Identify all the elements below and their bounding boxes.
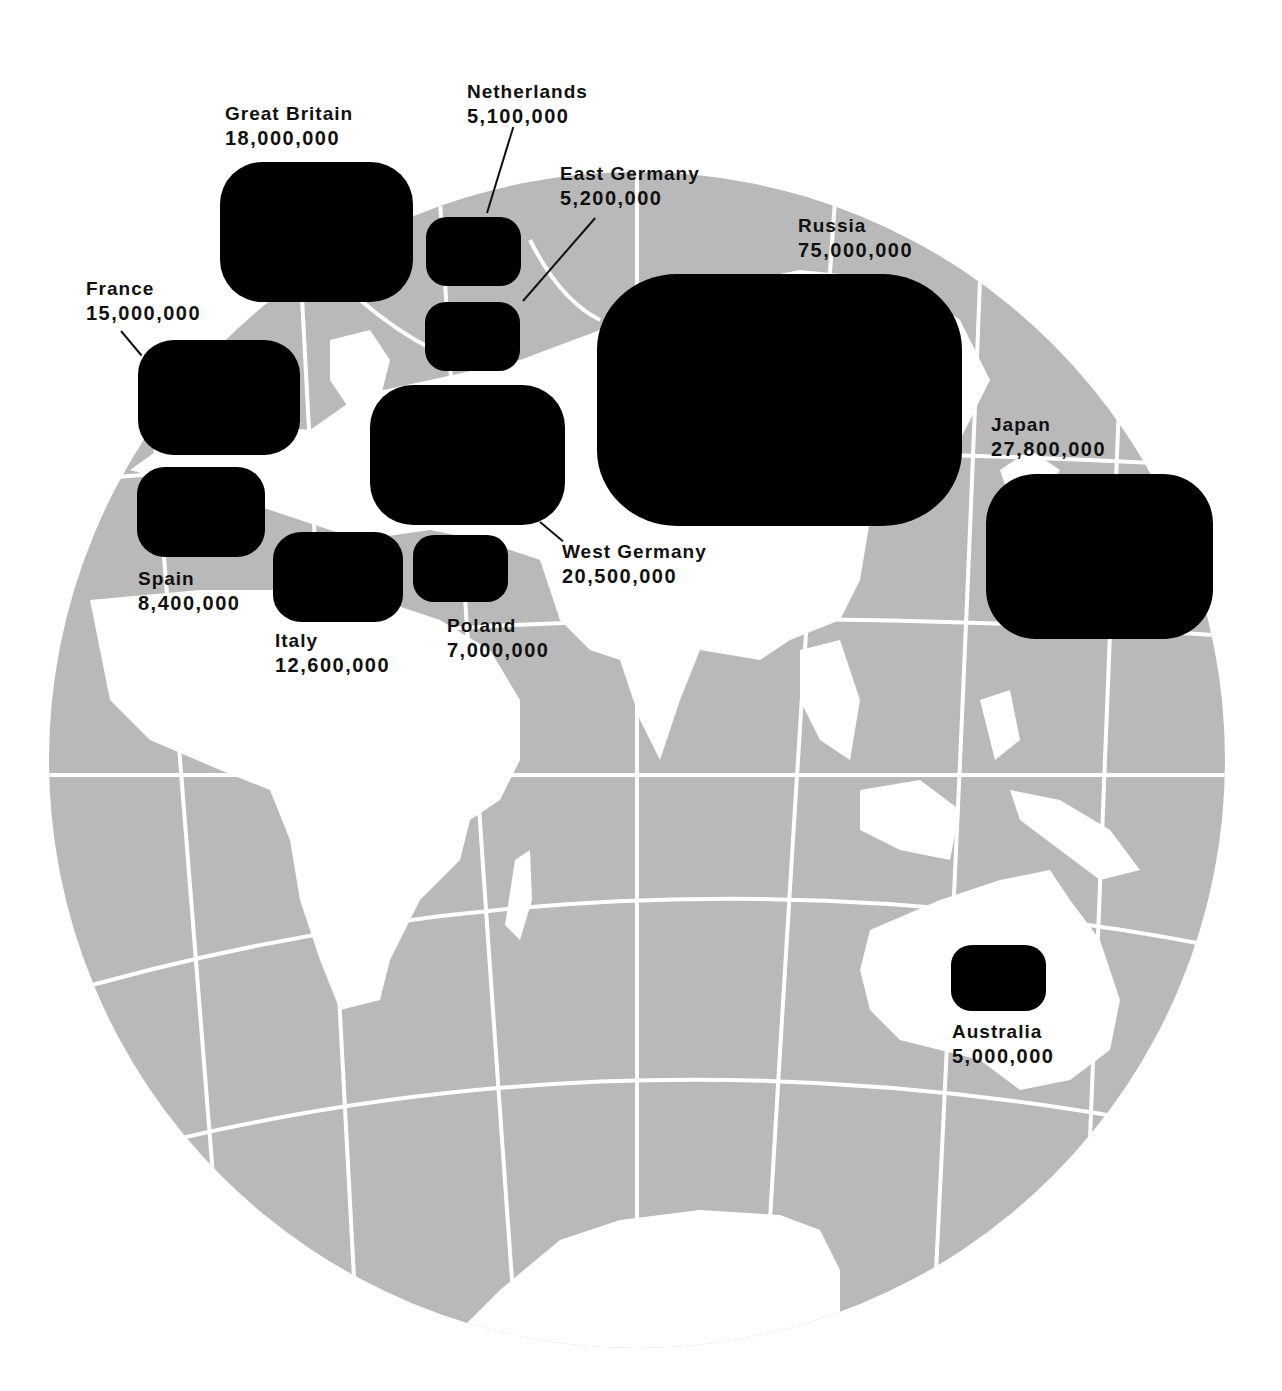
tv-netherlands	[426, 217, 521, 286]
label-east-germany: East Germany 5,200,000	[560, 162, 700, 210]
tv-east-germany	[425, 302, 520, 371]
label-australia: Australia 5,000,000	[952, 1020, 1054, 1068]
label-italy: Italy 12,600,000	[275, 629, 390, 677]
country-name: West Germany	[562, 541, 707, 562]
label-netherlands: Netherlands 5,100,000	[467, 80, 588, 128]
country-name: Italy	[275, 630, 318, 651]
label-japan: Japan 27,800,000	[991, 413, 1106, 461]
country-value: 7,000,000	[447, 638, 549, 662]
country-name: Spain	[138, 568, 195, 589]
country-value: 5,000,000	[952, 1044, 1054, 1068]
country-name: Poland	[447, 615, 516, 636]
label-west-germany: West Germany 20,500,000	[562, 540, 707, 588]
country-name: Russia	[798, 215, 866, 236]
country-value: 8,400,000	[138, 591, 240, 615]
country-name: Australia	[952, 1021, 1042, 1042]
country-value: 18,000,000	[225, 126, 353, 150]
country-value: 12,600,000	[275, 653, 390, 677]
country-value: 15,000,000	[86, 301, 201, 325]
country-value: 20,500,000	[562, 564, 707, 588]
country-name: Netherlands	[467, 81, 588, 102]
tv-poland	[413, 535, 508, 602]
tv-west-germany	[370, 385, 565, 525]
country-name: East Germany	[560, 163, 700, 184]
country-value: 5,200,000	[560, 186, 700, 210]
country-name: Great Britain	[225, 103, 353, 124]
country-value: 75,000,000	[798, 238, 913, 262]
label-great-britain: Great Britain 18,000,000	[225, 102, 353, 150]
tv-france	[138, 340, 300, 455]
label-poland: Poland 7,000,000	[447, 614, 549, 662]
tv-italy	[273, 532, 403, 622]
label-russia: Russia 75,000,000	[798, 214, 913, 262]
label-spain: Spain 8,400,000	[138, 567, 240, 615]
tv-australia	[951, 945, 1046, 1011]
tv-great-britain	[220, 162, 413, 302]
country-name: Japan	[991, 414, 1051, 435]
tv-spain	[137, 467, 265, 557]
country-value: 5,100,000	[467, 104, 588, 128]
country-value: 27,800,000	[991, 437, 1106, 461]
tv-japan	[986, 474, 1213, 639]
label-france: France 15,000,000	[86, 277, 201, 325]
tv-russia	[597, 274, 962, 526]
country-name: France	[86, 278, 154, 299]
